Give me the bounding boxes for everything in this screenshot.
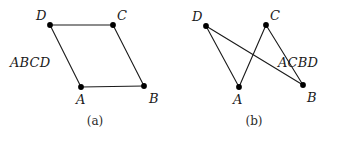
panel-b-vertex-label-a: A	[233, 93, 242, 106]
edge-a-c	[239, 25, 266, 87]
vertex-b	[300, 82, 306, 88]
vertex-b	[141, 83, 147, 89]
panel-b-vertex-label-b: B	[307, 91, 317, 104]
panel-a-caption: (a)	[0, 115, 190, 127]
vertex-c	[263, 22, 269, 28]
panel-b-cycle-label: ACBD	[278, 56, 318, 69]
figure-root: D C A B ABCD (a) D C A B ACBD (b)	[0, 0, 348, 141]
edge-b-a	[81, 86, 144, 87]
vertex-d	[47, 22, 53, 28]
panel-a-vertex-label-c: C	[117, 9, 127, 22]
vertex-a	[78, 84, 84, 90]
vertex-a	[236, 84, 242, 90]
edge-c-b	[113, 25, 144, 86]
panel-a: D C A B ABCD (a)	[0, 0, 174, 141]
edge-d-a	[206, 26, 239, 87]
panel-b-caption: (b)	[174, 115, 334, 127]
panel-b-vertex-label-c: C	[270, 9, 280, 22]
panel-b-vertex-label-d: D	[192, 10, 202, 23]
panel-a-vertex-label-a: A	[76, 93, 85, 106]
panel-a-vertex-label-d: D	[36, 9, 46, 22]
panel-a-vertex-label-b: B	[149, 92, 159, 105]
vertex-c	[110, 22, 116, 28]
edge-a-d	[50, 25, 81, 87]
panel-a-edge-group	[50, 25, 144, 87]
panel-a-cycle-label: ABCD	[10, 56, 50, 69]
panel-b: D C A B ACBD (b)	[174, 0, 348, 141]
vertex-d	[203, 23, 209, 29]
panel-a-node-group	[47, 22, 147, 90]
